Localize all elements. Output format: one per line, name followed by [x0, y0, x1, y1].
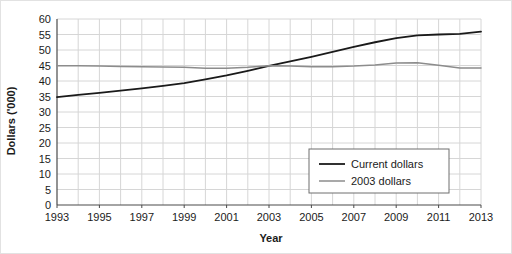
x-axis-tick-labels: 1993199519971999200120032005200720092011… — [45, 205, 493, 223]
x-tick-label: 2013 — [469, 211, 493, 223]
legend-label: Current dollars — [351, 158, 424, 170]
y-tick-label: 40 — [39, 75, 51, 87]
y-tick-label: 15 — [39, 153, 51, 165]
x-tick-label: 1995 — [87, 211, 111, 223]
legend-label: 2003 dollars — [351, 175, 411, 187]
line-chart: 051015202530354045505560 199319951997199… — [1, 1, 512, 254]
x-tick-label: 2011 — [427, 211, 451, 223]
y-tick-label: 5 — [45, 184, 51, 196]
x-tick-label: 1993 — [45, 211, 69, 223]
y-tick-label: 50 — [39, 44, 51, 56]
x-tick-label: 2005 — [299, 211, 323, 223]
x-tick-label: 2003 — [257, 211, 281, 223]
x-tick-label: 1999 — [172, 211, 196, 223]
x-tick-label: 2007 — [342, 211, 366, 223]
y-tick-label: 35 — [39, 91, 51, 103]
x-tick-label: 2001 — [214, 211, 238, 223]
chart-legend: Current dollars2003 dollars — [309, 149, 449, 193]
x-tick-label: 2009 — [384, 211, 408, 223]
x-tick-label: 1997 — [130, 211, 154, 223]
x-axis-title: Year — [259, 232, 283, 244]
y-tick-label: 20 — [39, 137, 51, 149]
y-tick-label: 60 — [39, 13, 51, 25]
y-tick-label: 25 — [39, 122, 51, 134]
chart-figure: 051015202530354045505560 199319951997199… — [0, 0, 512, 254]
y-tick-label: 0 — [45, 199, 51, 211]
y-tick-label: 10 — [39, 168, 51, 180]
y-tick-label: 30 — [39, 106, 51, 118]
y-axis-tick-labels: 051015202530354045505560 — [39, 13, 51, 211]
y-tick-label: 55 — [39, 29, 51, 41]
y-axis-title: Dollars ('000) — [5, 86, 17, 155]
y-tick-label: 45 — [39, 60, 51, 72]
